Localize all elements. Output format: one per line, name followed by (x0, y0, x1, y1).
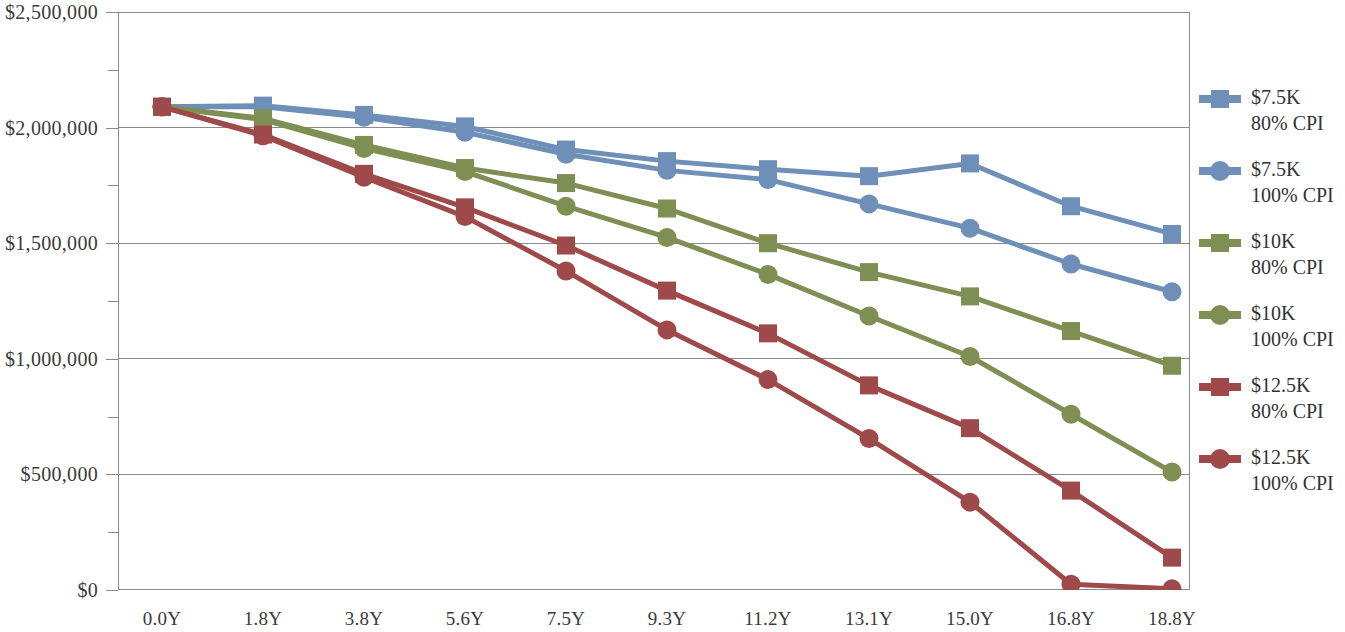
x-axis-tick-label: 18.8Y (1148, 608, 1196, 630)
y-axis-tick (108, 70, 118, 71)
plot-area (118, 12, 1190, 590)
y-axis-tick-label: $500,000 (21, 463, 98, 486)
legend-label-line1: $12.5K (1251, 374, 1310, 396)
legend-item[interactable]: $12.5K80% CPI (1199, 372, 1345, 424)
x-axis-tick-label: 16.8Y (1047, 608, 1095, 630)
legend-label-line1: $10K (1251, 230, 1295, 252)
legend-label-line2: 100% CPI (1251, 326, 1334, 352)
y-axis-tick (106, 128, 118, 129)
legend-point-swatch (1210, 449, 1230, 469)
legend-item[interactable]: $12.5K100% CPI (1199, 444, 1345, 496)
legend-label-line1: $12.5K (1251, 446, 1310, 468)
legend-point-swatch (1211, 90, 1229, 108)
legend-marker-circle-icon (1199, 303, 1241, 327)
legend-label-line1: $7.5K (1251, 86, 1300, 108)
legend-item[interactable]: $10K100% CPI (1199, 300, 1345, 352)
legend-marker-circle-icon (1199, 159, 1241, 183)
x-axis-tick-label: 9.3Y (648, 608, 686, 630)
x-axis-tick-label: 5.6Y (446, 608, 484, 630)
legend-label: $7.5K100% CPI (1241, 156, 1334, 208)
y-axis-tick-label: $2,000,000 (5, 116, 98, 139)
legend-label-line1: $7.5K (1251, 158, 1300, 180)
y-axis-tick (106, 474, 118, 475)
legend-label: $10K80% CPI (1241, 228, 1324, 280)
line-chart: $2,500,000$2,000,000$1,500,000$1,000,000… (0, 0, 1345, 632)
legend-label-line2: 80% CPI (1251, 398, 1324, 424)
legend-marker-square-icon (1199, 231, 1241, 255)
legend-marker-square-icon (1199, 87, 1241, 111)
legend-item[interactable]: $10K80% CPI (1199, 228, 1345, 280)
legend-point-swatch (1210, 305, 1230, 325)
legend-label-line2: 80% CPI (1251, 110, 1324, 136)
x-axis-tick-label: 3.8Y (345, 608, 383, 630)
x-axis-tick-label: 15.0Y (946, 608, 994, 630)
legend-label-line2: 100% CPI (1251, 182, 1334, 208)
y-axis-tick (106, 243, 118, 244)
legend-item[interactable]: $7.5K80% CPI (1199, 84, 1345, 136)
legend-marker-square-icon (1199, 375, 1241, 399)
legend-label: $7.5K80% CPI (1241, 84, 1324, 136)
y-axis-tick (106, 359, 118, 360)
x-axis-tick-label: 7.5Y (547, 608, 585, 630)
legend-label-line2: 80% CPI (1251, 254, 1324, 280)
y-axis-tick (108, 532, 118, 533)
y-axis-tick (108, 301, 118, 302)
legend-label: $12.5K80% CPI (1241, 372, 1324, 424)
legend-point-swatch (1211, 234, 1229, 252)
y-axis-tick (108, 417, 118, 418)
legend-label-line2: 100% CPI (1251, 470, 1334, 496)
x-axis-tick-label: 11.2Y (744, 608, 791, 630)
plot-frame (119, 13, 1190, 590)
y-axis-tick-label: $2,500,000 (5, 1, 98, 24)
legend-point-swatch (1210, 161, 1230, 181)
legend-label: $12.5K100% CPI (1241, 444, 1334, 496)
gridlines (118, 12, 1190, 590)
y-axis-tick-label: $1,500,000 (5, 232, 98, 255)
legend-point-swatch (1211, 378, 1229, 396)
y-axis-tick (106, 590, 118, 591)
x-axis-tick-label: 0.0Y (143, 608, 181, 630)
x-axis-tick-label: 13.1Y (845, 608, 893, 630)
x-axis-tick-label: 1.8Y (244, 608, 282, 630)
legend-item[interactable]: $7.5K100% CPI (1199, 156, 1345, 208)
legend-marker-circle-icon (1199, 447, 1241, 471)
y-axis-tick (106, 12, 118, 13)
y-axis-labels: $2,500,000$2,000,000$1,500,000$1,000,000… (0, 0, 108, 632)
legend-label-line1: $10K (1251, 302, 1295, 324)
y-axis-tick (108, 185, 118, 186)
chart-legend: $7.5K80% CPI$7.5K100% CPI$10K80% CPI$10K… (1199, 84, 1345, 516)
x-axis-labels: 0.0Y1.8Y3.8Y5.6Y7.5Y9.3Y11.2Y13.1Y15.0Y1… (0, 598, 1345, 632)
legend-label: $10K100% CPI (1241, 300, 1334, 352)
y-axis-tick-label: $1,000,000 (5, 347, 98, 370)
